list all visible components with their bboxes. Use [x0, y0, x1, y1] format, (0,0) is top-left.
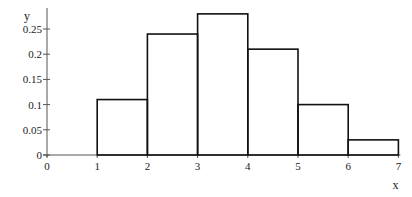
histogram-chart: 00.050.10.150.20.2501234567yx: [0, 0, 412, 197]
x-axis-label: x: [392, 178, 398, 192]
x-tick-label: 6: [345, 160, 351, 172]
y-axis-label: y: [24, 9, 30, 23]
x-tick-label: 5: [295, 160, 301, 172]
histogram-bar: [97, 100, 147, 155]
y-tick-label: 0.15: [23, 73, 43, 85]
histogram-bar: [298, 105, 348, 155]
histogram-bar: [248, 49, 298, 155]
histogram-bar: [348, 140, 398, 155]
x-tick-label: 7: [396, 160, 402, 172]
x-tick-label: 1: [94, 160, 100, 172]
y-tick-label: 0: [37, 149, 43, 161]
histogram-bar: [198, 14, 248, 155]
x-tick-label: 0: [44, 160, 50, 172]
x-tick-label: 2: [145, 160, 151, 172]
histogram-bar: [147, 34, 197, 155]
y-tick-label: 0.05: [23, 124, 43, 136]
x-tick-label: 4: [245, 160, 251, 172]
y-tick-label: 0.1: [28, 99, 42, 111]
x-tick-label: 3: [195, 160, 201, 172]
y-tick-label: 0.25: [23, 23, 43, 35]
y-tick-label: 0.2: [28, 48, 42, 60]
